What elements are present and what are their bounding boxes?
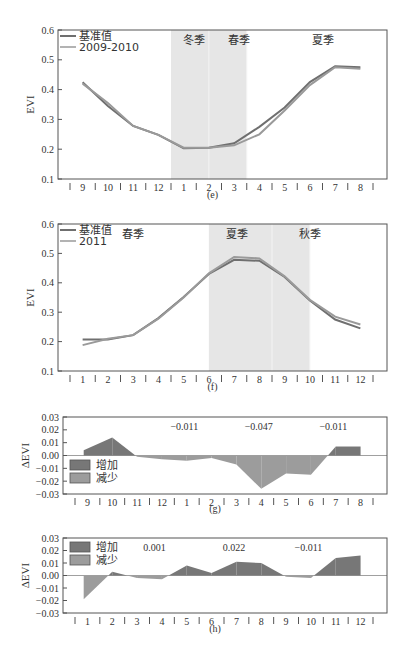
x-tick-label: 11	[132, 497, 142, 508]
increase-area	[236, 562, 261, 576]
decrease-area	[162, 456, 187, 461]
legend-label: 2011	[79, 235, 107, 248]
x-tick-label: 10	[305, 374, 315, 385]
x-tick-label: 8	[259, 616, 264, 627]
x-tick-label: 4	[159, 616, 164, 627]
y-tick-label: 0.02	[42, 545, 60, 556]
decrease-area	[84, 576, 109, 600]
y-tick-label: 0.03	[42, 533, 60, 544]
legend-increase-swatch	[70, 460, 90, 470]
x-tick-label: 1	[181, 182, 186, 193]
x-tick-label: 12	[153, 182, 163, 193]
panel-caption: (h)	[209, 623, 221, 635]
season-label: 秋季	[299, 227, 321, 241]
season-shade	[272, 224, 310, 371]
x-tick-label: 3	[234, 497, 239, 508]
x-tick-label: 9	[282, 374, 287, 385]
increase-area	[261, 563, 284, 576]
y-tick-label: 0.1	[42, 366, 55, 377]
decrease-area	[212, 456, 237, 465]
period-sum-annotation: −0.011	[170, 421, 198, 432]
x-tick-label: 3	[232, 182, 237, 193]
chart-panel-f: 春季夏季秋季0.10.20.30.40.50.6EVI1234567891011…	[24, 219, 387, 394]
x-tick-label: 5	[181, 374, 186, 385]
x-tick-label: 8	[257, 374, 262, 385]
x-tick-label: 2	[105, 374, 110, 385]
x-tick-label: 9	[85, 497, 90, 508]
y-axis-label: ΔEVI	[19, 562, 31, 588]
x-tick-label: 11	[331, 616, 341, 627]
x-tick-label: 11	[330, 374, 340, 385]
x-tick-label: 9	[284, 616, 289, 627]
legend-label: 增加	[96, 540, 118, 554]
x-tick-label: 12	[157, 497, 167, 508]
x-tick-label: 4	[156, 374, 161, 385]
season-label: 夏季	[312, 34, 334, 47]
x-tick-label: 1	[85, 616, 90, 627]
x-tick-label: 4	[257, 182, 262, 193]
x-tick-label: 1	[80, 374, 85, 385]
y-tick-label: 0.6	[42, 219, 55, 230]
increase-area	[112, 572, 127, 576]
x-tick-label: 11	[128, 182, 138, 193]
y-tick-label: 0.01	[42, 437, 60, 448]
y-tick-label: 0.1	[42, 174, 55, 185]
panel-caption: (e)	[207, 189, 218, 201]
x-tick-label: 5	[284, 497, 289, 508]
y-tick-label: −0.02	[36, 476, 59, 487]
x-tick-label: 9	[80, 182, 85, 193]
increase-area	[187, 566, 212, 576]
y-axis-label: EVI	[24, 288, 36, 307]
legend-decrease-swatch	[70, 473, 90, 483]
increase-area	[314, 558, 336, 576]
y-axis-label: EVI	[24, 95, 36, 114]
increase-area	[336, 447, 361, 456]
season-shade	[171, 30, 209, 179]
decrease-area	[137, 456, 162, 460]
decrease-area	[236, 456, 261, 489]
period-sum-annotation: 0.001	[143, 542, 166, 553]
figure-canvas: 冬季春季夏季0.10.20.30.40.50.6EVI9101112123456…	[0, 0, 412, 652]
season-shade	[209, 30, 247, 179]
y-tick-label: −0.03	[36, 608, 59, 619]
y-tick-label: 0.4	[42, 84, 55, 95]
chart-panel-e: 冬季春季夏季0.10.20.30.40.50.6EVI9101112123456…	[24, 25, 387, 202]
legend-label: 减少	[96, 472, 118, 485]
increase-area	[108, 572, 112, 576]
x-tick-label: 7	[333, 182, 338, 193]
season-label: 春季	[122, 228, 144, 241]
y-tick-label: 0.3	[42, 307, 55, 318]
x-tick-label: 6	[307, 182, 312, 193]
chart-panel-g: −0.011−0.047−0.0110.030.020.010.00−0.01−…	[19, 412, 387, 516]
increase-area	[84, 438, 113, 456]
x-tick-label: 4	[259, 497, 264, 508]
increase-area	[212, 562, 237, 576]
y-tick-label: −0.02	[36, 595, 59, 606]
x-tick-label: 5	[184, 616, 189, 627]
y-axis-label: ΔEVI	[19, 442, 31, 468]
decrease-area	[311, 576, 314, 579]
panel-caption: (f)	[208, 381, 218, 393]
increase-area	[336, 556, 361, 576]
chart-panel-h: 0.0010.022−0.0110.030.020.010.00−0.01−0.…	[19, 533, 387, 636]
x-tick-label: 8	[358, 497, 363, 508]
y-tick-label: 0.01	[42, 558, 60, 569]
x-tick-label: 12	[356, 616, 366, 627]
panel-caption: (g)	[209, 503, 221, 515]
x-tick-label: 2	[110, 616, 115, 627]
season-shade	[209, 224, 272, 371]
x-tick-label: 7	[234, 616, 239, 627]
x-tick-label: 3	[135, 616, 140, 627]
decrease-area	[187, 456, 212, 461]
y-tick-label: 0.6	[42, 25, 55, 36]
decrease-area	[311, 456, 328, 475]
y-tick-label: −0.03	[36, 489, 59, 500]
y-tick-label: 0.2	[42, 144, 55, 155]
y-tick-label: 0.5	[42, 54, 55, 65]
x-tick-label: 1	[184, 497, 189, 508]
increase-area	[328, 447, 336, 456]
x-tick-label: 5	[282, 182, 287, 193]
y-tick-label: 0.02	[42, 424, 60, 435]
season-label: 春季	[228, 34, 250, 47]
decrease-area	[284, 576, 286, 577]
